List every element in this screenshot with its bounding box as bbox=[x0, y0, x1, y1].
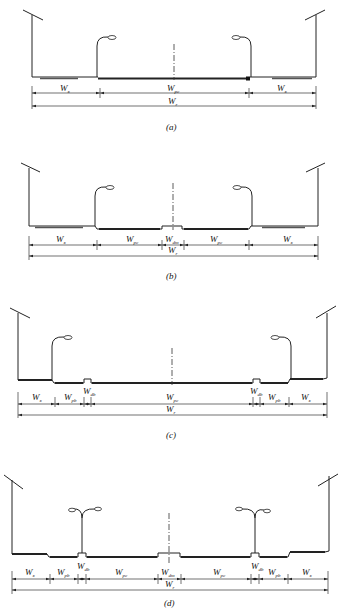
street-lamp-icon bbox=[95, 186, 114, 227]
arrowhead bbox=[80, 403, 84, 406]
arrowhead bbox=[158, 578, 162, 581]
arrowhead bbox=[12, 589, 16, 592]
arrowhead bbox=[260, 403, 264, 406]
double-street-lamp-icon bbox=[236, 507, 271, 553]
panel-b: Wx Wpc Wdm Wpc Wx Wr (b) bbox=[21, 163, 325, 281]
svg-text:Wx: Wx bbox=[32, 392, 43, 403]
arrowhead bbox=[284, 578, 288, 581]
building-left-icon bbox=[4, 475, 23, 554]
building-left-icon bbox=[10, 308, 30, 380]
svg-text:Wpc: Wpc bbox=[210, 234, 223, 245]
dimension-label: Wdm bbox=[165, 234, 179, 245]
arrowhead bbox=[324, 589, 328, 592]
dimension-label: Wpb bbox=[268, 392, 281, 403]
dimension-label: Wx bbox=[25, 567, 36, 578]
dimension-label: Wdb bbox=[250, 386, 263, 397]
svg-text:Wdm: Wdm bbox=[165, 234, 179, 245]
total-width-label: Wr bbox=[166, 404, 176, 415]
svg-text:Wx: Wx bbox=[60, 83, 71, 94]
arrowhead bbox=[12, 578, 16, 581]
dimension-label: Wpc bbox=[167, 83, 180, 94]
svg-text:Wpb: Wpb bbox=[268, 567, 281, 578]
dimension-label: Wx bbox=[277, 83, 288, 94]
panel-caption: (a) bbox=[166, 122, 177, 132]
svg-text:Wpc: Wpc bbox=[213, 567, 226, 578]
dimension-label: Wpb bbox=[57, 567, 70, 578]
dimension-label: Wdb bbox=[83, 386, 96, 397]
svg-text:Wdm: Wdm bbox=[161, 567, 175, 578]
arrowhead bbox=[255, 578, 259, 581]
arrowhead bbox=[314, 255, 318, 258]
arrowhead bbox=[285, 403, 289, 406]
arrowhead bbox=[249, 92, 253, 95]
arrowhead bbox=[32, 105, 36, 108]
arrowhead bbox=[86, 578, 90, 581]
arrowhead bbox=[249, 403, 253, 406]
svg-text:Wpb: Wpb bbox=[64, 392, 77, 403]
road-surface bbox=[12, 551, 329, 557]
svg-text:Wpc: Wpc bbox=[126, 234, 139, 245]
svg-text:Wr: Wr bbox=[165, 579, 175, 590]
svg-text:Wpc: Wpc bbox=[115, 567, 128, 578]
arrowhead bbox=[50, 578, 54, 581]
arrowhead bbox=[249, 244, 253, 247]
arrowhead bbox=[247, 578, 251, 581]
arrowhead bbox=[180, 244, 184, 247]
building-right-icon bbox=[318, 474, 338, 551]
arrowhead bbox=[259, 578, 263, 581]
arrowhead bbox=[32, 92, 36, 95]
arrowhead bbox=[245, 92, 249, 95]
dimension-label: Wx bbox=[32, 392, 43, 403]
svg-text:Wx: Wx bbox=[56, 234, 67, 245]
street-lamp-icon bbox=[232, 36, 251, 78]
road-surface bbox=[18, 378, 327, 383]
arrowhead bbox=[312, 92, 316, 95]
svg-text:Wx: Wx bbox=[301, 392, 312, 403]
arrowhead bbox=[314, 244, 318, 247]
svg-text:Wx: Wx bbox=[25, 567, 36, 578]
arrowhead bbox=[51, 403, 55, 406]
arrowhead bbox=[96, 92, 100, 95]
road-surface bbox=[29, 226, 318, 229]
arrowhead bbox=[55, 403, 59, 406]
dimension-label: Wdb bbox=[77, 561, 90, 572]
building-right-icon bbox=[305, 10, 325, 77]
arrowhead bbox=[184, 244, 188, 247]
panel-caption: (d) bbox=[164, 598, 175, 608]
dimension-label: Wx bbox=[283, 234, 294, 245]
dimension-label: Wpb bbox=[268, 567, 281, 578]
street-lamp-icon bbox=[97, 36, 116, 78]
svg-text:Wr: Wr bbox=[168, 245, 178, 256]
building-right-icon bbox=[306, 163, 325, 226]
arrowhead bbox=[97, 244, 101, 247]
street-lamp-icon bbox=[52, 336, 72, 381]
panel-c: Wx Wpb Wdb Wpc Wdb Wpb Wx Wr (c) bbox=[10, 306, 336, 440]
svg-text:Wx: Wx bbox=[283, 234, 294, 245]
svg-text:Wpb: Wpb bbox=[57, 567, 70, 578]
total-width-label: Wr bbox=[165, 579, 175, 590]
arrowhead bbox=[323, 414, 327, 417]
svg-text:Wr: Wr bbox=[166, 404, 176, 415]
cross-section-diagram: Wx Wpc Wx Wr (a) bbox=[0, 0, 347, 614]
svg-text:Wdb: Wdb bbox=[250, 386, 263, 397]
building-left-icon bbox=[23, 10, 43, 77]
arrowhead bbox=[181, 578, 185, 581]
arrowhead bbox=[256, 403, 260, 406]
dimension-label: Wx bbox=[301, 392, 312, 403]
arrowhead bbox=[154, 578, 158, 581]
dimension-label: Wpc bbox=[213, 567, 226, 578]
arrowhead bbox=[29, 244, 33, 247]
arrowhead bbox=[74, 578, 78, 581]
arrowhead bbox=[29, 255, 33, 258]
arrowhead bbox=[87, 403, 91, 406]
arrowhead bbox=[288, 578, 292, 581]
svg-text:Wx: Wx bbox=[302, 567, 313, 578]
arrowhead bbox=[18, 403, 22, 406]
dimension-label: Wpc bbox=[166, 392, 179, 403]
arrowhead bbox=[82, 578, 86, 581]
arrowhead bbox=[158, 244, 162, 247]
svg-text:Wdb: Wdb bbox=[83, 386, 96, 397]
arrowhead bbox=[323, 403, 327, 406]
panel-caption: (c) bbox=[166, 430, 176, 440]
panel-a: Wx Wpc Wx Wr (a) bbox=[23, 10, 325, 132]
